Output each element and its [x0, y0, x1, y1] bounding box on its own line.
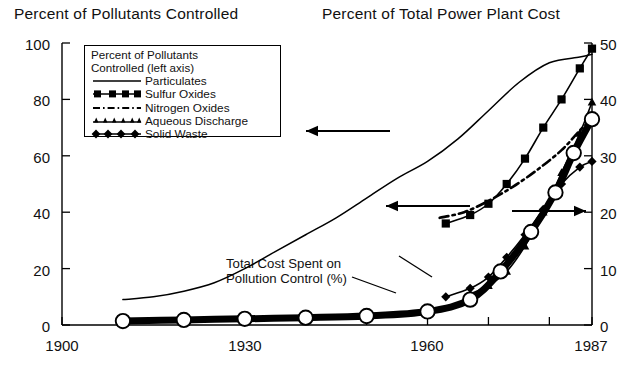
series-particulates: [123, 54, 592, 299]
arrow-head: [574, 206, 586, 216]
data-point-marker: [539, 124, 547, 132]
data-point-marker: [548, 185, 562, 199]
data-point-marker: [576, 64, 584, 72]
series-solid-waste: [441, 157, 596, 302]
data-point-marker: [587, 157, 596, 166]
series-layer: [116, 45, 599, 329]
data-point-marker: [441, 292, 450, 301]
data-point-marker: [503, 180, 511, 188]
data-point-marker: [524, 225, 538, 239]
arrow-to-left-axis-nitrogen: [386, 201, 470, 211]
data-point-marker: [567, 146, 581, 160]
data-point-marker: [557, 95, 565, 103]
series-aqueous-discharge: [466, 98, 596, 298]
data-point-marker: [177, 313, 191, 327]
data-point-marker: [420, 304, 434, 318]
series-total-cost-spent-on-pollution-control: [116, 112, 599, 328]
plot-canvas: [0, 0, 638, 371]
series-line: [446, 49, 592, 224]
data-point-marker: [442, 219, 450, 227]
axis-frame: [62, 43, 592, 325]
arrow-head: [386, 201, 398, 211]
data-point-marker: [493, 264, 507, 278]
data-point-marker: [238, 312, 252, 326]
data-point-marker: [359, 309, 373, 323]
series-line: [123, 119, 592, 321]
arrow-head: [306, 126, 318, 136]
data-point-marker: [585, 112, 599, 126]
data-point-marker: [521, 155, 529, 163]
series-line: [123, 54, 592, 299]
data-point-marker: [463, 292, 477, 306]
arrow-to-left-axis-particulates: [306, 126, 390, 136]
series-line: [446, 161, 592, 296]
series-sulfur-oxides: [442, 45, 596, 228]
data-point-marker: [588, 45, 596, 53]
data-point-marker: [298, 310, 312, 324]
callout-leader-left: [352, 277, 396, 293]
data-point-marker: [116, 314, 130, 328]
callout-leader-right: [399, 256, 432, 277]
chart-figure: Percent of Pollutants Controlled Percent…: [0, 0, 638, 371]
series-line: [470, 102, 592, 294]
